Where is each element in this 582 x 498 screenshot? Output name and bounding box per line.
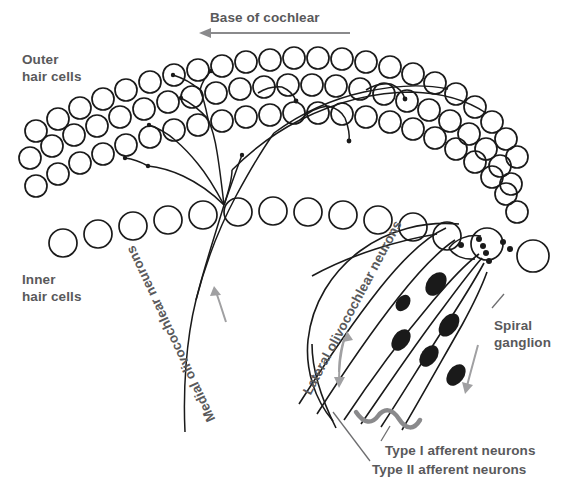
- label-base-of-cochlear: Base of cochlear: [210, 10, 320, 27]
- leader-line-spiral-ganglion: [492, 294, 504, 308]
- outer-hair-cell-row-1: [25, 47, 528, 168]
- diagram-canvas: Outer hair cells Inner hair cells Base o…: [0, 0, 582, 498]
- label-type-i-afferent-neurons: Type I afferent neurons: [385, 443, 536, 460]
- cochlea-innervation-svg: [0, 0, 582, 498]
- outer-hair-cell-row-3: [25, 102, 528, 223]
- leader-line-type-i: [381, 426, 390, 441]
- inner-hair-cell-group: [49, 197, 549, 272]
- label-spiral-ganglion: Spiral ganglion: [494, 318, 551, 352]
- label-inner-hair-cells: Inner hair cells: [22, 272, 82, 306]
- label-type-ii-afferent-neurons: Type II afferent neurons: [372, 462, 526, 479]
- flow-arrow-medial: [216, 292, 226, 322]
- type-i-brace: [356, 410, 420, 427]
- label-outer-hair-cells: Outer hair cells: [22, 52, 82, 86]
- flow-arrow-afferent: [467, 345, 478, 386]
- base-of-cochlear-arrow: [199, 28, 350, 38]
